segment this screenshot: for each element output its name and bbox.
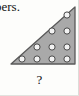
page-edge-bottom — [0, 95, 79, 96]
dot-r2-c1 — [49, 28, 55, 34]
question-mark-caption: ? — [0, 72, 79, 88]
page-edge-right — [78, 0, 79, 96]
triangle-diagram — [7, 4, 77, 70]
page-crop: bers. ? — [0, 0, 79, 96]
dot-r3-c1 — [34, 44, 40, 50]
dot-r4-c2 — [34, 56, 40, 62]
dot-r1-c1 — [64, 12, 70, 18]
dot-r3-c3 — [64, 44, 70, 50]
dot-r4-c3 — [49, 56, 55, 62]
dot-r3-c2 — [49, 44, 55, 50]
dot-r4-c1 — [19, 56, 25, 62]
dot-r4-c4 — [64, 56, 70, 62]
triangular-dot-figure — [7, 4, 77, 70]
dot-r2-c2 — [64, 28, 70, 34]
